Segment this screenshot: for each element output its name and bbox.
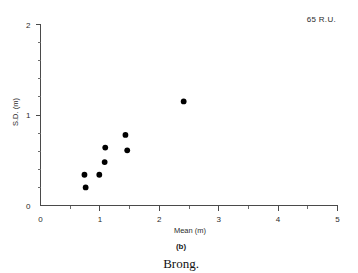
data-point xyxy=(102,159,108,165)
y-axis-tick-label: 0 xyxy=(26,202,31,211)
data-point xyxy=(83,185,89,191)
x-axis-tick-label: 5 xyxy=(335,215,340,224)
data-point xyxy=(96,172,102,178)
x-axis-title: Mean (m) xyxy=(174,226,207,235)
data-points-group xyxy=(82,99,187,191)
panel-label: (b) xyxy=(176,242,187,251)
x-axis-tick-label: 1 xyxy=(98,215,103,224)
y-axis-title: S.D. (m) xyxy=(11,98,20,126)
x-axis-tick-label: 0 xyxy=(38,215,43,224)
data-point xyxy=(123,132,129,138)
ticks-group xyxy=(36,25,338,211)
x-axis-tick-label: 4 xyxy=(276,215,281,224)
data-point xyxy=(181,99,187,105)
units-annotation: 65 R.U. xyxy=(307,15,336,24)
x-axis-tick-label: 2 xyxy=(157,215,162,224)
data-point xyxy=(82,172,88,178)
y-axis-tick-label: 2 xyxy=(26,21,31,30)
scatter-plot-figure: 012345012 Mean (m) S.D. (m) 65 R.U. (b) … xyxy=(0,0,358,273)
x-axis-tick-label: 3 xyxy=(216,215,221,224)
data-point xyxy=(124,147,130,153)
data-point xyxy=(102,145,108,151)
y-axis-tick-label: 1 xyxy=(26,111,31,120)
axes-group xyxy=(41,25,338,206)
plot-canvas: 012345012 Mean (m) S.D. (m) 65 R.U. (b) … xyxy=(0,0,358,273)
figure-caption: Brong. xyxy=(163,256,199,271)
axis-spine xyxy=(41,25,338,206)
tick-labels-group: 012345012 xyxy=(26,21,340,224)
